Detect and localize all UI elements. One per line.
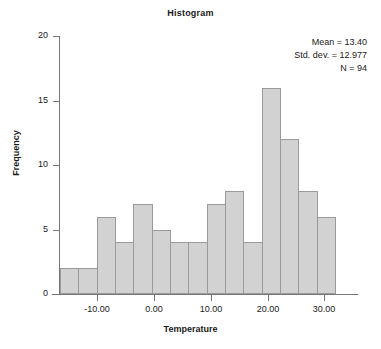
x-axis-title: Temperature [0, 324, 381, 334]
y-axis-tick [53, 294, 59, 295]
histogram-bar [280, 139, 299, 294]
y-axis-line [59, 36, 60, 295]
y-axis-title: Frequency [11, 103, 21, 203]
y-axis-tick-label: 0 [8, 288, 48, 298]
histogram-bar [115, 242, 134, 294]
histogram-bar [78, 268, 97, 294]
x-axis-tick [324, 295, 325, 301]
histogram-bar [60, 268, 79, 294]
x-axis-tick [154, 295, 155, 301]
y-axis-tick [53, 230, 59, 231]
histogram-bar [152, 230, 171, 295]
plot-area [60, 36, 350, 294]
x-axis-tick [211, 295, 212, 301]
y-axis-tick-label: 5 [8, 224, 48, 234]
histogram-bar [170, 242, 189, 294]
y-axis-tick-label: 20 [8, 30, 48, 40]
y-axis-tick [53, 101, 59, 102]
histogram-bar [188, 242, 207, 294]
x-axis-tick-label: 0.00 [124, 304, 184, 314]
x-axis-tick-label: 10.00 [181, 304, 241, 314]
histogram-bar [133, 204, 152, 294]
x-axis-tick [97, 295, 98, 301]
bar-series [60, 36, 350, 294]
x-axis-tick-label: 30.00 [294, 304, 354, 314]
y-axis-tick [53, 165, 59, 166]
x-axis-tick-label: -10.00 [67, 304, 127, 314]
x-axis-tick-label: 20.00 [238, 304, 298, 314]
histogram-bar [207, 204, 226, 294]
chart-title: Histogram [0, 8, 381, 18]
histogram-bar [298, 191, 317, 294]
histogram-chart: Histogram Mean = 13.40 Std. dev. = 12.97… [0, 0, 381, 349]
histogram-bar [225, 191, 244, 294]
histogram-bar [243, 242, 262, 294]
histogram-bar [262, 88, 281, 294]
histogram-bar [317, 217, 336, 294]
histogram-bar [97, 217, 116, 294]
x-axis-tick [268, 295, 269, 301]
y-axis-tick [53, 36, 59, 37]
